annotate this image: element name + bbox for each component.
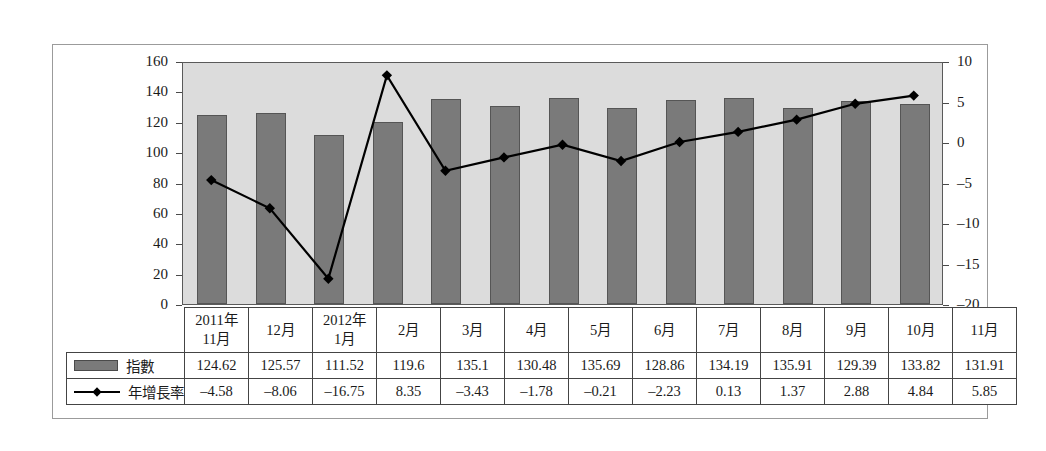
right-axis-tick-mark [943,62,949,63]
table-header-corner [67,308,185,353]
right-axis-tick-mark [943,224,949,225]
bar [666,100,696,304]
bar [431,99,461,304]
bar [197,115,227,304]
bar [256,113,286,304]
right-axis-tick-label: 0 [957,135,999,150]
header-line-2: 11月 [185,330,248,349]
right-axis-tick-mark [943,305,949,306]
table-cell: 111.52 [313,353,377,379]
right-axis-tick-label: –10 [957,216,999,231]
bar [314,135,344,304]
table-column-header: 5月 [569,308,633,353]
table-column-header: 7月 [697,308,761,353]
left-axis-tick-label: 60 [126,206,168,221]
right-axis-tick-mark [943,184,949,185]
table-cell: –3.43 [441,379,505,405]
legend-entry: 年增長率 [67,381,184,402]
table-row: 指數124.62125.57111.52119.6135.1130.48135.… [67,353,1017,379]
header-line-1: 2月 [377,321,440,340]
bar [373,122,403,304]
table-cell: 135.69 [569,353,633,379]
table-header-row: 2011年11月12月2012年1月2月3月4月5月6月7月8月9月10月11月 [67,308,1017,353]
header-line-1: 4月 [505,321,568,340]
table-cell: 130.48 [505,353,569,379]
chart-figure: 020406080100120140160 –20–15–10–50510 20… [0,0,1046,451]
left-axis-tick-label: 160 [126,54,168,69]
table-cell: 135.1 [441,353,505,379]
bar-swatch-icon [74,360,118,371]
table-cell: 125.57 [249,353,313,379]
right-axis-tick-mark [943,103,949,104]
table-cell: –8.06 [249,379,313,405]
bar [900,104,930,304]
table-column-header: 2011年11月 [185,308,249,353]
table-cell: 135.91 [761,353,825,379]
table-column-header: 9月 [825,308,889,353]
left-axis-tick-label: 120 [126,115,168,130]
bar [607,108,637,304]
right-axis-tick-mark [943,265,949,266]
table-cell: –2.23 [633,379,697,405]
right-axis-tick-label: 5 [957,95,999,110]
right-axis-tick-label: –15 [957,257,999,272]
table-column-header: 12月 [249,308,313,353]
legend-label: 年增長率 [128,381,184,402]
table-cell: –0.21 [569,379,633,405]
table-cell: 5.85 [953,379,1017,405]
table-column-header: 2012年1月 [313,308,377,353]
table-cell: 2.88 [825,379,889,405]
header-line-1: 9月 [825,321,888,340]
plot-area [182,62,943,305]
table-cell: 131.91 [953,353,1017,379]
table-column-header: 2月 [377,308,441,353]
right-axis-tick-label: –5 [957,176,999,191]
table-cell: –1.78 [505,379,569,405]
table-row: 年增長率–4.58–8.06–16.758.35–3.43–1.78–0.21–… [67,379,1017,405]
table-cell: –4.58 [185,379,249,405]
bar [490,106,520,304]
table-column-header: 4月 [505,308,569,353]
table-column-header: 10月 [889,308,953,353]
left-axis-tick-label: 80 [126,176,168,191]
right-axis-tick-mark [943,143,949,144]
bar [549,98,579,304]
bar [783,108,813,305]
left-axis-tick-label: 20 [126,267,168,282]
table-cell: 119.6 [377,353,441,379]
table-column-header: 3月 [441,308,505,353]
table-cell: 8.35 [377,379,441,405]
table-cell: 128.86 [633,353,697,379]
legend-label: 指數 [126,355,154,376]
table-cell: 1.37 [761,379,825,405]
bar [841,101,871,304]
data-table: 2011年11月12月2012年1月2月3月4月5月6月7月8月9月10月11月… [66,307,1017,405]
table-cell: –16.75 [313,379,377,405]
legend-cell: 指數 [67,353,185,379]
header-line-1: 5月 [569,321,632,340]
line-marker-icon [74,386,120,398]
left-axis-tick-label: 40 [126,236,168,251]
legend-entry: 指數 [67,355,184,376]
header-line-1: 2012年 [313,311,376,330]
header-line-2: 1月 [313,330,376,349]
header-line-1: 8月 [761,321,824,340]
header-line-1: 2011年 [185,311,248,330]
table-column-header: 6月 [633,308,697,353]
table-cell: 0.13 [697,379,761,405]
header-line-1: 7月 [697,321,760,340]
header-line-1: 11月 [953,321,1016,340]
table-column-header: 8月 [761,308,825,353]
legend-cell: 年增長率 [67,379,185,405]
header-line-1: 6月 [633,321,696,340]
table-cell: 4.84 [889,379,953,405]
left-axis-tick-mark [176,305,182,306]
bar [724,98,754,304]
table-cell: 129.39 [825,353,889,379]
table-cell: 134.19 [697,353,761,379]
header-line-1: 10月 [889,321,952,340]
header-line-1: 12月 [249,321,312,340]
table-cell: 124.62 [185,353,249,379]
left-axis-tick-label: 100 [126,145,168,160]
table-cell: 133.82 [889,353,953,379]
